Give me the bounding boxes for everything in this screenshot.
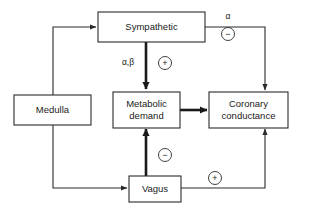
sign-minus-glyph: − [225, 29, 230, 39]
sign-plus-glyph: + [162, 58, 167, 68]
sign-badge-minus-vagus: − [159, 149, 172, 162]
flow-diagram: Medulla Sympathetic Metabolic demand Cor… [0, 0, 309, 218]
metabolic-demand-label-line2: demand [129, 110, 163, 121]
coronary-conductance-label-line1: Coronary [229, 98, 268, 109]
node-medulla[interactable]: Medulla [14, 95, 91, 125]
medulla-label: Medulla [36, 104, 70, 115]
diagram-canvas: Medulla Sympathetic Metabolic demand Cor… [0, 0, 309, 218]
edge-vagus-to-coronary [181, 129, 265, 188]
metabolic-demand-label-line1: Metabolic [126, 98, 167, 109]
sign-minus-glyph: − [162, 150, 167, 160]
sign-badge-plus-vagus: + [209, 172, 222, 185]
sympathetic-label: Sympathetic [125, 21, 178, 32]
sign-badge-plus-sympathetic: + [159, 57, 172, 70]
edge-medulla-to-sympathetic [53, 27, 96, 95]
coronary-conductance-label-line2: conductance [222, 110, 276, 121]
edge-label-alpha: α [226, 11, 231, 21]
edge-label-alpha-beta: α,β [122, 57, 134, 67]
sign-plus-glyph: + [212, 173, 217, 183]
edge-sympathetic-to-coronary [205, 27, 265, 90]
node-sympathetic[interactable]: Sympathetic [98, 12, 205, 42]
vagus-label: Vagus [142, 183, 168, 194]
node-vagus[interactable]: Vagus [129, 176, 181, 202]
node-coronary-conductance[interactable]: Coronary conductance [209, 92, 288, 128]
node-metabolic-demand[interactable]: Metabolic demand [113, 92, 180, 128]
edge-medulla-to-vagus [53, 125, 127, 188]
sign-badge-minus-sympathetic: − [222, 28, 235, 41]
